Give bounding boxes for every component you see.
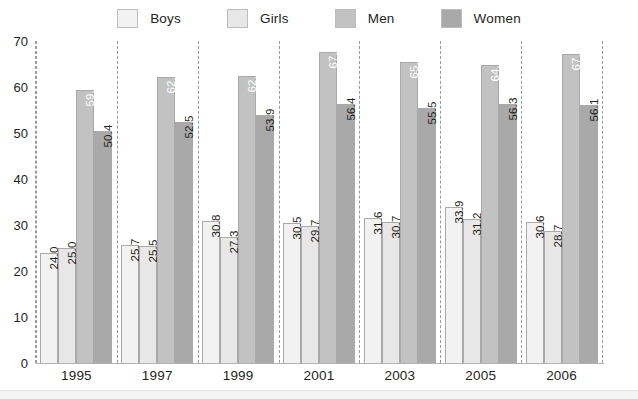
- bar-men-1999[interactable]: 62.5: [238, 76, 256, 364]
- x-tick-label: 1999: [198, 368, 279, 383]
- bar-group-2006: 30.628.767.156.1: [521, 41, 602, 363]
- bar-chart: BoysGirlsMenWomen 706050403020100 24.025…: [0, 0, 638, 399]
- bar-group-bars: 24.025.059.350.4: [36, 41, 117, 363]
- y-tick-label: 0: [21, 357, 28, 370]
- bar-girls-1997[interactable]: 25.5: [139, 246, 157, 363]
- bar-men-2005[interactable]: 64.7: [481, 65, 499, 363]
- legend-item-label: Women: [474, 11, 521, 26]
- bar-group-bars: 33.931.264.756.3: [440, 41, 521, 363]
- bar-boys-2001[interactable]: 30.5: [283, 223, 301, 363]
- y-tick-label: 20: [14, 265, 28, 278]
- legend-item-label: Girls: [260, 11, 289, 26]
- bar-group-bars: 30.529.767.756.4: [279, 41, 360, 363]
- x-tick-label: 1995: [36, 368, 117, 383]
- bar-value-label: 62.5: [247, 69, 259, 92]
- bar-group-1995: 24.025.059.350.4: [36, 41, 117, 363]
- bar-value-label: 50.4: [103, 125, 115, 148]
- bar-value-label: 53.9: [265, 108, 277, 131]
- bar-group-2001: 30.529.767.756.4: [279, 41, 360, 363]
- footer-band: [0, 390, 638, 399]
- bar-value-label: 55.5: [427, 101, 439, 124]
- bar-girls-2001[interactable]: 29.7: [301, 226, 319, 363]
- legend-swatch-icon: [441, 9, 462, 28]
- chart-legend: BoysGirlsMenWomen: [0, 0, 638, 36]
- bar-women-1995[interactable]: 50.4: [94, 131, 112, 363]
- y-tick-label: 10: [14, 311, 28, 324]
- legend-item-men[interactable]: Men: [335, 9, 395, 28]
- legend-item-girls[interactable]: Girls: [227, 9, 289, 28]
- bar-group-2003: 31.630.765.455.5: [359, 41, 440, 363]
- bar-boys-1999[interactable]: 30.8: [202, 221, 220, 363]
- bar-boys-2003[interactable]: 31.6: [364, 218, 382, 363]
- bar-women-1999[interactable]: 53.9: [256, 115, 274, 363]
- y-axis: 706050403020100: [0, 41, 36, 363]
- x-axis-baseline: [36, 363, 604, 364]
- group-separator: [602, 41, 603, 363]
- bar-value-label: 56.3: [508, 97, 520, 120]
- bar-girls-1995[interactable]: 25.0: [58, 248, 76, 363]
- bar-men-2006[interactable]: 67.1: [562, 54, 580, 363]
- bar-group-bars: 25.725.562.252.5: [117, 41, 198, 363]
- bar-men-2001[interactable]: 67.7: [319, 52, 337, 363]
- bar-girls-1999[interactable]: 27.3: [220, 237, 238, 363]
- bar-value-label: 65.4: [409, 56, 421, 79]
- bar-boys-2006[interactable]: 30.6: [526, 222, 544, 363]
- bar-value-label: 56.1: [589, 98, 601, 121]
- bar-value-label: 56.4: [346, 97, 358, 120]
- legend-swatch-icon: [117, 9, 138, 28]
- bar-value-label: 67.1: [571, 48, 583, 71]
- bar-group-bars: 30.628.767.156.1: [521, 41, 602, 363]
- bar-women-2001[interactable]: 56.4: [337, 104, 355, 363]
- bar-boys-1997[interactable]: 25.7: [121, 245, 139, 363]
- bar-group-bars: 31.630.765.455.5: [359, 41, 440, 363]
- bar-value-label: 62.2: [166, 70, 178, 93]
- bar-group-bars: 30.827.362.553.9: [198, 41, 279, 363]
- bar-group-1997: 25.725.562.252.5: [117, 41, 198, 363]
- bar-girls-2003[interactable]: 30.7: [382, 222, 400, 363]
- bar-women-1997[interactable]: 52.5: [175, 122, 193, 364]
- bar-women-2006[interactable]: 56.1: [580, 105, 598, 363]
- y-tick-label: 60: [14, 81, 28, 94]
- bar-value-label: 52.5: [184, 115, 196, 138]
- y-tick-label: 70: [14, 35, 28, 48]
- legend-item-boys[interactable]: Boys: [117, 9, 181, 28]
- bar-value-label: 59.3: [85, 84, 97, 107]
- x-tick-label: 2001: [279, 368, 360, 383]
- bar-girls-2005[interactable]: 31.2: [463, 219, 481, 363]
- bar-men-1997[interactable]: 62.2: [157, 77, 175, 363]
- plot-area: 24.025.059.350.425.725.562.252.530.827.3…: [36, 41, 602, 363]
- bar-value-label: 67.7: [328, 45, 340, 68]
- bar-women-2005[interactable]: 56.3: [499, 104, 517, 363]
- x-tick-label: 2003: [359, 368, 440, 383]
- y-tick-label: 40: [14, 173, 28, 186]
- legend-item-label: Boys: [150, 11, 181, 26]
- legend-item-women[interactable]: Women: [441, 9, 521, 28]
- bar-group-1999: 30.827.362.553.9: [198, 41, 279, 363]
- y-tick-label: 30: [14, 219, 28, 232]
- x-tick-label: 2005: [440, 368, 521, 383]
- bar-girls-2006[interactable]: 28.7: [544, 231, 562, 363]
- x-axis: 1995199719992001200320052006: [36, 366, 602, 388]
- x-tick-label: 1997: [117, 368, 198, 383]
- bar-value-label: 64.7: [490, 59, 502, 82]
- bar-women-2003[interactable]: 55.5: [418, 108, 436, 363]
- bar-boys-2005[interactable]: 33.9: [445, 207, 463, 363]
- bar-men-2003[interactable]: 65.4: [400, 62, 418, 363]
- y-tick-label: 50: [14, 127, 28, 140]
- bar-men-1995[interactable]: 59.3: [76, 90, 94, 363]
- bar-boys-1995[interactable]: 24.0: [40, 253, 58, 363]
- legend-swatch-icon: [227, 9, 248, 28]
- bar-group-2005: 33.931.264.756.3: [440, 41, 521, 363]
- x-tick-label: 2006: [521, 368, 602, 383]
- bar-value-label: 30.8: [211, 215, 223, 238]
- legend-swatch-icon: [335, 9, 356, 28]
- legend-item-label: Men: [368, 11, 395, 26]
